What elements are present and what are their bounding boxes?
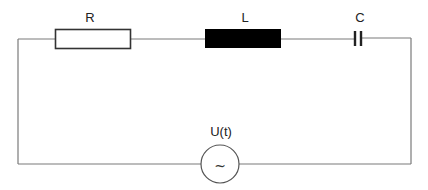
resistor-symbol: [56, 30, 131, 49]
resistor-label: R: [85, 11, 94, 24]
capacitor-symbol: [355, 31, 361, 46]
wires: [18, 38, 411, 164]
inductor-label: L: [241, 11, 248, 24]
ac-tilde-icon: ~: [214, 159, 226, 173]
source-label: U(t): [210, 125, 232, 138]
capacitor-label: C: [355, 11, 364, 24]
inductor-symbol: [205, 29, 281, 48]
